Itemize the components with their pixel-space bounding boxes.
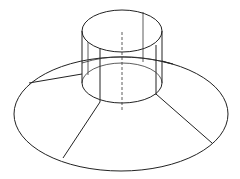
cone-line-lower-left <box>63 102 100 158</box>
base-ellipse <box>14 57 228 171</box>
diagram-canvas <box>0 0 240 179</box>
cylinder-on-cone-drawing <box>0 0 240 179</box>
cone-line-lower-right <box>156 94 212 143</box>
cone-line-right <box>162 61 173 64</box>
cylinder-top-ellipse <box>82 10 162 52</box>
